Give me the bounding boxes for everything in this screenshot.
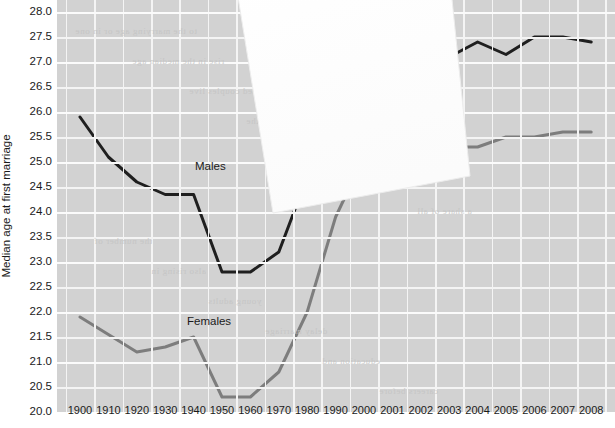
ghost-text-line: young adults — [208, 296, 261, 306]
ghost-text-line: education and — [322, 356, 380, 366]
gridline-horizontal — [57, 12, 615, 14]
plot-area: to the marrying age or in onerise in the… — [57, 0, 615, 412]
gridline-horizontal — [57, 112, 615, 114]
ghost-text-line: careers before — [379, 386, 438, 396]
ghost-text-line: also rising in — [151, 266, 206, 276]
ghost-text-line: rise in the median age — [132, 56, 224, 66]
ghost-text-line: married couples live — [189, 86, 274, 96]
series-label-males: Males — [195, 160, 226, 172]
gridline-horizontal — [57, 387, 615, 389]
ghost-text-line: a share of all — [417, 206, 472, 216]
gridline-horizontal — [57, 162, 615, 164]
ghost-text-line: households with — [360, 176, 428, 186]
gridline-horizontal — [57, 337, 615, 339]
gridline-horizontal — [57, 87, 615, 89]
ghost-text-line: delay marriage — [265, 326, 327, 336]
gridline-horizontal — [57, 287, 615, 289]
chart-figure: to the marrying age or in onerise in the… — [0, 0, 615, 428]
gridline-horizontal — [57, 212, 615, 214]
gridline-horizontal — [57, 187, 615, 189]
x-axis-tick-label: 2008 — [571, 405, 611, 416]
gridline-horizontal — [57, 262, 615, 264]
ghost-text-line: the number of — [94, 236, 152, 246]
series-label-females: Females — [187, 315, 231, 327]
gridline-horizontal — [57, 312, 615, 314]
y-axis-title-text: Median age at first marriage — [0, 134, 12, 277]
ghost-text-line: to the marrying age or in one — [75, 26, 197, 36]
gridline-horizontal — [57, 137, 615, 139]
ghost-text-line: in the decade — [303, 146, 358, 156]
y-axis-title: Median age at first marriage — [0, 0, 14, 412]
gridline-horizontal — [57, 37, 615, 39]
ghost-text-line: percent of all the — [246, 116, 318, 126]
